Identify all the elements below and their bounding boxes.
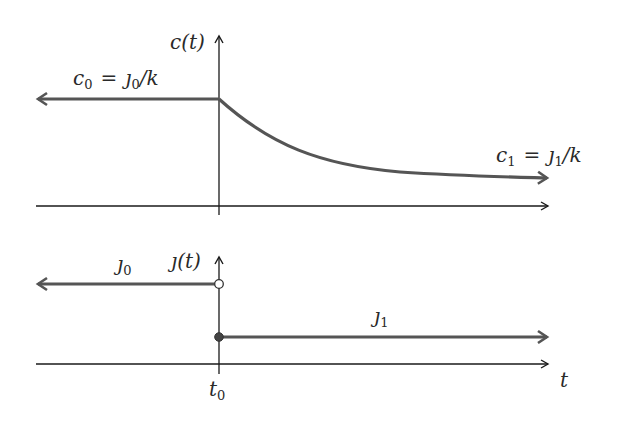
bottom-y-axis-label: ȷ(t) bbox=[167, 249, 201, 273]
x-axis-label: t bbox=[560, 368, 569, 392]
bottom-plot: ȷ(t) ȷ0 ȷ1 t0 t bbox=[36, 249, 569, 403]
top-plot: c(t) c0=ȷ0/k c1=ȷ1/k bbox=[36, 30, 582, 215]
j1-label: ȷ1 bbox=[370, 304, 388, 330]
j0-label: ȷ0 bbox=[113, 252, 131, 278]
open-endpoint-marker bbox=[215, 280, 224, 289]
c1-label: c1=ȷ1/k bbox=[496, 143, 582, 169]
diagram-canvas: c(t) c0=ȷ0/k c1=ȷ1/k ȷ(t) ȷ0 ȷ1 bbox=[0, 0, 630, 424]
top-y-axis-label: c(t) bbox=[170, 30, 205, 54]
c0-label: c0=ȷ0/k bbox=[73, 66, 159, 92]
t0-tick-label: t0 bbox=[209, 377, 225, 403]
filled-endpoint-marker bbox=[215, 333, 224, 342]
